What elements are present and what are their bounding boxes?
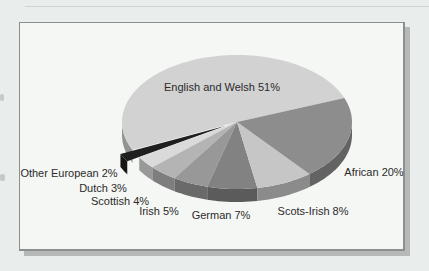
slice-label-scots-irish: Scots-Irish 8% — [278, 205, 349, 217]
slice-label-layer: English and Welsh 51%Other European 2%Du… — [0, 0, 429, 271]
slice-label-other-european: Other European 2% — [20, 167, 117, 179]
slice-label-german: German 7% — [192, 209, 251, 221]
slice-label-african: African 20% — [344, 166, 403, 178]
slice-label-irish: Irish 5% — [139, 205, 179, 217]
slice-label-english-and-welsh: English and Welsh 51% — [164, 81, 280, 93]
slice-label-dutch: Dutch 3% — [79, 182, 127, 194]
